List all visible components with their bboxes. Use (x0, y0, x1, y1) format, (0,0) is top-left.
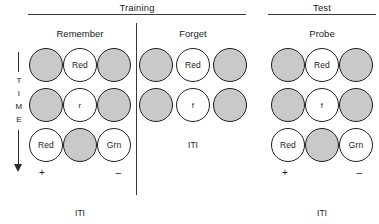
stimulus-circle-right (213, 88, 247, 122)
circle-label: Red (185, 61, 201, 70)
stimulus-circle-right (213, 48, 247, 82)
stimulus-circle-left (29, 48, 63, 82)
response-sign-incorrect: – (356, 167, 362, 179)
stimulus-circle-right (339, 88, 373, 122)
response-signs-row-probe: + – (268, 165, 376, 181)
phase-header-training: Training (28, 2, 246, 15)
trial-sequence-figure: Training Test T I M E Remember Red r (0, 0, 379, 224)
phase-rule-training (28, 14, 246, 15)
condition-column-forget: Forget Red f ITI (143, 28, 243, 165)
stimulus-circle-left (271, 48, 305, 82)
stimulus-row: f (143, 85, 243, 125)
circle-label: Grn (349, 141, 363, 150)
phase-label-training: Training (28, 2, 246, 13)
stimulus-circle-right (97, 48, 131, 82)
phase-rule-test (268, 14, 376, 15)
stimulus-circle-center: Red (305, 48, 339, 82)
condition-title-forget: Forget (143, 28, 243, 39)
stimulus-row: Red (268, 45, 376, 85)
stimulus-circle-center: Red (176, 48, 210, 82)
condition-column-remember: Remember Red r Red Grn + – (25, 28, 135, 181)
response-sign-incorrect: – (115, 167, 121, 179)
circle-label: r (79, 101, 82, 110)
circle-label: f (321, 101, 323, 110)
condition-column-probe: Probe Red f Red Grn + – (268, 28, 376, 181)
condition-title-probe: Probe (268, 28, 376, 39)
time-axis-line-lower (18, 130, 19, 166)
phase-label-test: Test (268, 2, 376, 13)
stimulus-circle-right: Grn (339, 128, 373, 162)
circle-label: Red (280, 141, 296, 150)
response-sign-correct: + (282, 167, 288, 179)
circle-label: f (192, 101, 194, 110)
stimulus-row: Red (25, 45, 135, 85)
stimulus-circle-right (339, 48, 373, 82)
circle-label: Red (72, 61, 88, 70)
stimulus-circle-center (305, 128, 339, 162)
stimulus-row: Red Grn (268, 125, 376, 165)
stimulus-circle-left (139, 88, 173, 122)
stimulus-circle-center: Red (63, 48, 97, 82)
stimulus-row: Red Grn (25, 125, 135, 165)
stimulus-row: f (268, 85, 376, 125)
stimulus-row: r (25, 85, 135, 125)
condition-title-remember: Remember (25, 28, 135, 39)
response-sign-correct: + (39, 167, 45, 179)
stimulus-circle-right (97, 88, 131, 122)
condition-divider-line (136, 23, 137, 195)
iti-label-forget: ITI (143, 125, 243, 165)
circle-label: Grn (107, 141, 121, 150)
stimulus-row: Red (143, 45, 243, 85)
circle-label: Red (38, 141, 54, 150)
stimulus-circle-left (139, 48, 173, 82)
iti-label-probe: ITI (268, 208, 376, 218)
iti-label-remember: ITI (25, 208, 135, 218)
stimulus-circle-left (271, 88, 305, 122)
stimulus-circle-center: r (63, 88, 97, 122)
stimulus-circle-center: f (176, 88, 210, 122)
phase-header-test: Test (268, 2, 376, 15)
stimulus-circle-left (29, 88, 63, 122)
time-axis-line-upper (18, 52, 19, 72)
stimulus-circle-left: Red (271, 128, 305, 162)
stimulus-circle-right: Grn (97, 128, 131, 162)
stimulus-circle-center (63, 128, 97, 162)
response-signs-row-remember: + – (25, 165, 135, 181)
stimulus-circle-left: Red (29, 128, 63, 162)
time-axis-arrow-icon (14, 164, 22, 172)
stimulus-circle-center: f (305, 88, 339, 122)
circle-label: Red (314, 61, 330, 70)
